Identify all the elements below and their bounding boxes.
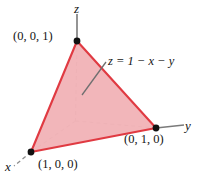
vertex-label-100: (1, 0, 0)	[38, 158, 78, 171]
z-axis-label: z	[74, 2, 79, 15]
figure-canvas: z y x (0, 0, 1) (1, 0, 0) (0, 1, 0) z = …	[0, 0, 198, 180]
vertex-label-010: (0, 1, 0)	[124, 133, 164, 146]
y-axis-label: y	[185, 119, 191, 132]
vertex-dot-100	[28, 149, 35, 156]
vertex-dot-001	[74, 38, 81, 45]
x-axis-label: x	[5, 160, 11, 173]
y-axis-line	[156, 125, 184, 128]
plot-graphics	[0, 0, 198, 180]
vertex-dot-010	[153, 125, 160, 132]
plane-equation-label: z = 1 − x − y	[108, 55, 174, 68]
vertex-label-001: (0, 0, 1)	[13, 30, 53, 43]
